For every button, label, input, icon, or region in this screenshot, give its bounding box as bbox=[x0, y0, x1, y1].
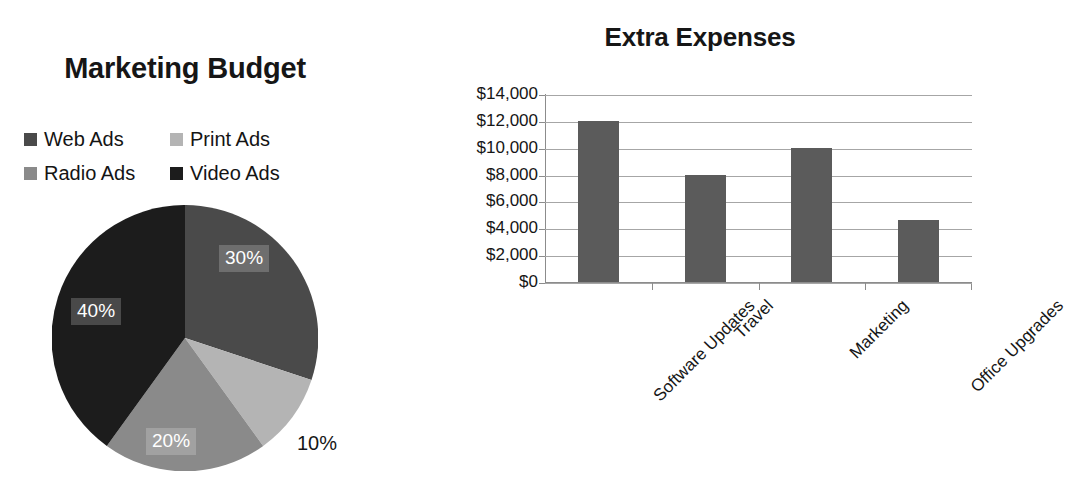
y-axis-tick bbox=[539, 229, 545, 230]
legend-item-radio-ads: Radio Ads bbox=[24, 162, 170, 185]
y-axis-tick bbox=[539, 283, 545, 284]
legend-label-print-ads: Print Ads bbox=[190, 128, 270, 151]
y-axis-tick-label: $0 bbox=[428, 272, 538, 292]
bar-software-updates[interactable] bbox=[578, 121, 619, 282]
x-axis-tick bbox=[652, 283, 653, 290]
y-axis-tick bbox=[539, 176, 545, 177]
y-axis-tick-label: $6,000 bbox=[428, 191, 538, 211]
legend-row-1: Web Ads Print Ads bbox=[24, 122, 354, 156]
legend-swatch-video-ads-icon bbox=[170, 167, 183, 180]
gridline bbox=[545, 95, 972, 96]
y-axis-tick bbox=[539, 256, 545, 257]
legend-label-video-ads: Video Ads bbox=[190, 162, 280, 185]
x-axis-label-office-upgrades: Office Upgrades bbox=[967, 296, 1067, 397]
pie-value-label-radio-ads: 20% bbox=[146, 428, 196, 455]
legend-swatch-radio-ads-icon bbox=[24, 167, 37, 180]
y-axis-tick-label: $8,000 bbox=[428, 165, 538, 185]
pie-value-label-video-ads: 40% bbox=[71, 298, 121, 325]
y-axis-tick bbox=[539, 202, 545, 203]
pie-chart-legend: Web Ads Print Ads Radio Ads Video Ads bbox=[24, 122, 354, 190]
extra-expenses-chart: Extra Expenses $14,000$12,000$10,000$8,0… bbox=[420, 0, 992, 503]
legend-row-2: Radio Ads Video Ads bbox=[24, 156, 354, 190]
pie-value-label-web-ads: 30% bbox=[219, 245, 269, 272]
marketing-budget-chart: Marketing Budget Web Ads Print Ads Radio… bbox=[0, 0, 420, 503]
y-axis-tick bbox=[539, 95, 545, 96]
x-axis-label-marketing: Marketing bbox=[846, 296, 913, 363]
bar-office-upgrades[interactable] bbox=[898, 220, 939, 282]
legend-label-web-ads: Web Ads bbox=[44, 128, 124, 151]
pie-chart-title: Marketing Budget bbox=[0, 52, 370, 85]
y-axis-tick-label: $2,000 bbox=[428, 245, 538, 265]
bar-travel[interactable] bbox=[685, 175, 726, 282]
legend-item-web-ads: Web Ads bbox=[24, 128, 170, 151]
legend-item-print-ads: Print Ads bbox=[170, 128, 270, 151]
y-axis-tick bbox=[539, 149, 545, 150]
legend-swatch-print-ads-icon bbox=[170, 133, 183, 146]
bar-marketing[interactable] bbox=[791, 148, 832, 282]
y-axis-tick bbox=[539, 122, 545, 123]
y-axis-tick-label: $10,000 bbox=[428, 138, 538, 158]
y-axis-tick-label: $12,000 bbox=[428, 111, 538, 131]
x-axis-label-software-updates: Software Updates bbox=[650, 296, 760, 406]
legend-label-radio-ads: Radio Ads bbox=[44, 162, 135, 185]
pie-value-label-print-ads: 10% bbox=[297, 432, 337, 455]
y-axis-tick-label: $4,000 bbox=[428, 218, 538, 238]
x-axis-tick bbox=[759, 283, 760, 290]
legend-swatch-web-ads-icon bbox=[24, 133, 37, 146]
x-axis-tick bbox=[865, 283, 866, 290]
bar-chart-title: Extra Expenses bbox=[520, 22, 880, 53]
legend-item-video-ads: Video Ads bbox=[170, 162, 280, 185]
x-axis-end-tick bbox=[971, 283, 972, 290]
bar-chart-plot-area: $14,000$12,000$10,000$8,000$6,000$4,000$… bbox=[545, 95, 972, 283]
y-axis-tick-label: $14,000 bbox=[428, 84, 538, 104]
